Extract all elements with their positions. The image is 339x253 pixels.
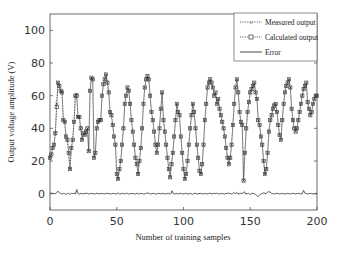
x-tick-label: 150 [240, 215, 261, 228]
y-tick-label: 20 [31, 155, 45, 168]
line-chart: 050100150200020406080100 Number of train… [0, 0, 339, 253]
legend: × Measured output Calculated output Erro… [234, 13, 319, 61]
x-marker-icon: × [249, 19, 253, 27]
x-tick-label: 0 [47, 215, 54, 228]
x-axis-label: Number of training samples [135, 232, 230, 242]
legend-item-measured: × Measured output [240, 18, 317, 27]
y-axis-label: Output voltage amplitude (V) [6, 61, 16, 162]
x-tick-label: 100 [173, 215, 194, 228]
square-marker-icon [249, 35, 253, 39]
y-tick-label: 100 [24, 24, 45, 37]
legend-label-error: Error [265, 48, 281, 57]
x-tick-label: 200 [307, 215, 328, 228]
legend-label-measured: Measured output [265, 18, 317, 27]
y-tick-label: 40 [31, 122, 45, 135]
x-tick-label: 50 [110, 215, 124, 228]
series-1 [50, 74, 317, 180]
y-tick-label: 0 [38, 188, 45, 201]
y-tick-label: 60 [31, 90, 45, 103]
series-layer [48, 73, 318, 197]
y-tick-label: 80 [31, 57, 45, 70]
series-2 [50, 190, 317, 197]
legend-label-calculated: Calculated output [265, 33, 319, 42]
